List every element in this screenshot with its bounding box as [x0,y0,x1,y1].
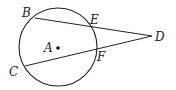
label-a: A [43,41,53,55]
label-d: D [154,30,165,44]
label-f: F [96,50,106,64]
label-c: C [9,65,18,79]
secant-diagram: B E D A F C [0,0,176,90]
label-b: B [21,6,31,20]
label-e: E [89,13,99,27]
center-point-a [56,46,60,50]
